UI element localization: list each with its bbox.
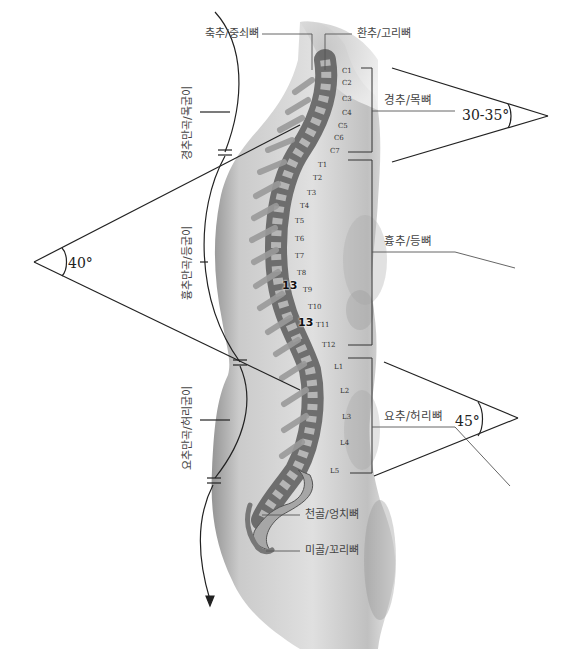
vertebra-c5: C5 bbox=[338, 123, 348, 130]
vertebra-t11: T11 bbox=[316, 322, 330, 329]
vertebra-c2: C2 bbox=[342, 80, 352, 87]
curvature-thoracic: 흉추만곡/등굽이 bbox=[182, 226, 193, 300]
vertebra-l3: L3 bbox=[342, 414, 351, 421]
label-thoracic: 흉추/등뼈 bbox=[384, 236, 432, 248]
label-axis: 축추/중쇠뼈 bbox=[205, 28, 259, 39]
angle-cervical: 30-35° bbox=[462, 108, 509, 122]
vertebra-c4: C4 bbox=[342, 110, 352, 117]
angle-lumbar: 45° bbox=[455, 414, 480, 428]
vertebra-t6: T6 bbox=[295, 236, 304, 243]
spine-diagram: 축추/중쇠뼈 환추/고리뼈 경추/목뼈 흉추/등뼈 요추/허리뼈 천골/엉치뼈 … bbox=[0, 0, 580, 649]
label-lumbar: 요추/허리뼈 bbox=[384, 411, 443, 423]
vertebra-t10: T10 bbox=[308, 304, 322, 311]
vertebra-c1: C1 bbox=[342, 68, 352, 75]
vertebra-t4: T4 bbox=[300, 203, 309, 210]
vertebra-l2: L2 bbox=[340, 388, 349, 395]
vertebra-t1: T1 bbox=[318, 162, 327, 169]
curvature-lumbar: 요추만곡/허리굽이 bbox=[182, 386, 193, 470]
vertebra-l4: L4 bbox=[340, 440, 349, 447]
vertebra-t12: T12 bbox=[322, 342, 336, 349]
marker-13-upper: 13 bbox=[282, 280, 297, 291]
label-atlas: 환추/고리뼈 bbox=[357, 28, 411, 39]
vertebra-t5: T5 bbox=[295, 218, 304, 225]
vertebra-t3: T3 bbox=[307, 190, 316, 197]
vertebra-l1: L1 bbox=[334, 364, 343, 371]
vertebra-t7: T7 bbox=[295, 253, 304, 260]
angle-thoracic: 40° bbox=[68, 256, 93, 270]
marker-13-lower: 13 bbox=[298, 317, 313, 328]
label-sacrum: 천골/엉치뼈 bbox=[305, 509, 359, 520]
vertebra-c6: C6 bbox=[334, 135, 344, 142]
vertebra-l5: L5 bbox=[330, 468, 339, 475]
vertebra-t9: T9 bbox=[303, 287, 312, 294]
vertebra-c7: C7 bbox=[330, 148, 340, 155]
curvature-cervical: 경추만곡/목굽이 bbox=[182, 86, 193, 160]
vertebra-c3: C3 bbox=[342, 96, 352, 103]
vertebra-t8: T8 bbox=[297, 270, 306, 277]
label-cervical: 경추/목뼈 bbox=[384, 95, 432, 107]
label-coccyx: 미골/꼬리뼈 bbox=[305, 545, 359, 556]
diagram-graphics bbox=[0, 0, 580, 649]
vertebra-t2: T2 bbox=[313, 175, 322, 182]
